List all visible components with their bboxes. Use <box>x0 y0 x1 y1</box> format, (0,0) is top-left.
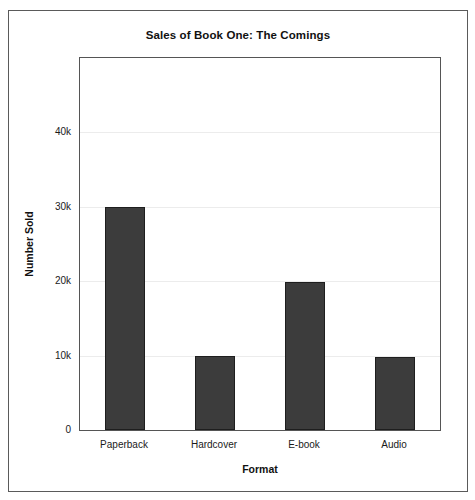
y-axis-tick-label: 20k <box>31 275 71 286</box>
plot-area <box>79 57 441 431</box>
bar-e-book <box>285 282 325 430</box>
x-axis-title: Format <box>79 463 441 475</box>
y-axis-tick-label: 10k <box>31 349 71 360</box>
x-axis-tick-label: Audio <box>381 439 407 450</box>
y-axis-tick-label: 30k <box>31 200 71 211</box>
chart-title: Sales of Book One: The Comings <box>9 29 467 41</box>
page-border: Sales of Book One: The Comings Number So… <box>8 10 468 492</box>
x-axis-tick-label: Paperback <box>100 439 148 450</box>
y-axis-tick-group: 010k20k30k40k <box>31 57 71 431</box>
bar-audio <box>375 357 415 430</box>
gridline <box>80 132 440 133</box>
y-axis-tick-label: 40k <box>31 126 71 137</box>
bar-hardcover <box>195 356 235 430</box>
bar-chart-figure: Sales of Book One: The Comings Number So… <box>9 11 467 491</box>
y-axis-tick-label: 0 <box>31 424 71 435</box>
x-axis-tick-label: Hardcover <box>191 439 237 450</box>
bar-paperback <box>105 207 145 430</box>
x-axis-tick-label: E-book <box>288 439 320 450</box>
